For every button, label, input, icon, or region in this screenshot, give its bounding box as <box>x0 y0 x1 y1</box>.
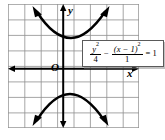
origin-label: O <box>51 62 59 73</box>
equation-expression: y2 4 − (x − 1)2 1 = 1 <box>89 43 156 64</box>
equation-callout: y2 4 − (x − 1)2 1 = 1 <box>82 40 164 67</box>
fraction-y-squared-over-4: y2 4 <box>90 43 101 64</box>
y-axis-arrow-down <box>60 121 66 128</box>
denominator-one: 1 <box>123 55 131 64</box>
exponent-two-second: 2 <box>138 41 141 47</box>
binomial-x-minus-one: (x − 1) <box>114 44 138 54</box>
y-axis-arrow-up <box>60 4 66 11</box>
minus-operator: − <box>104 48 109 58</box>
y-axis-label: y <box>68 5 73 16</box>
exponent-two-first: 2 <box>96 41 99 47</box>
denominator-four: 4 <box>92 55 100 64</box>
equals-one: = 1 <box>146 48 157 58</box>
graph-screenshot: y x O y2 4 − (x − 1)2 1 = 1 <box>0 0 165 140</box>
fraction-x-minus-1-squared-over-1: (x − 1)2 1 <box>112 43 143 64</box>
hyperbola-lower-branch <box>37 94 104 120</box>
x-axis-label: x <box>127 68 133 79</box>
